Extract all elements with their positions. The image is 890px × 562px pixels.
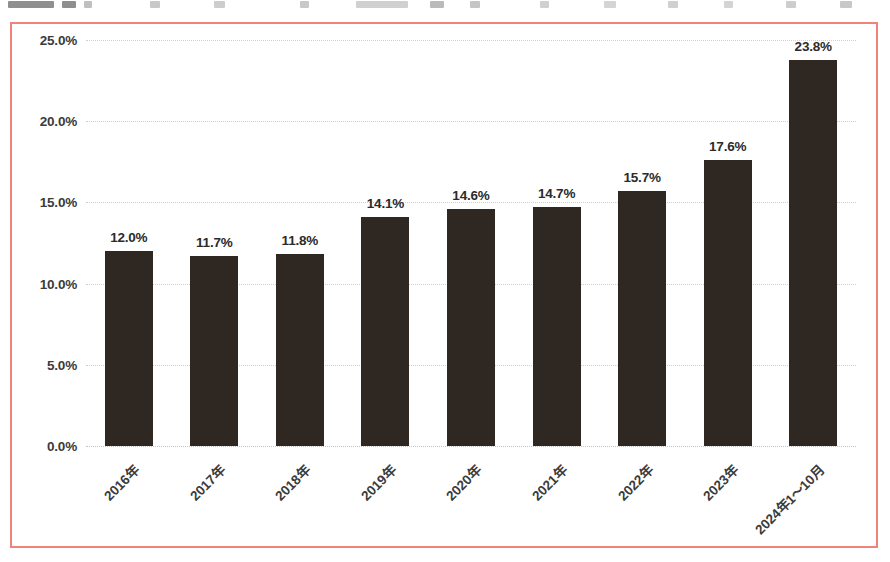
bar-series: 12.0%11.7%11.8%14.1%14.6%14.7%15.7%17.6%… [86, 40, 856, 446]
x-axis: 2016年2017年2018年2019年2020年2021年2022年2023年… [86, 454, 856, 546]
x-axis-tick-label: 2019年 [355, 460, 399, 504]
bar[interactable] [618, 191, 666, 446]
bar-value-label: 14.1% [367, 196, 404, 211]
bar[interactable] [361, 217, 409, 446]
chart-frame: 0.0%5.0%10.0%15.0%20.0%25.0% 12.0%11.7%1… [10, 22, 878, 548]
x-axis-tick-label: 2018年 [270, 460, 314, 504]
bar[interactable] [190, 256, 238, 446]
bar[interactable] [704, 160, 752, 446]
gridline [86, 446, 856, 447]
x-axis-tick-label: 2024年1～10月 [749, 460, 827, 538]
x-axis-tick-label: 2021年 [526, 460, 570, 504]
x-axis-tick-label: 2022年 [612, 460, 656, 504]
x-axis-tick-label: 2017年 [184, 460, 228, 504]
y-axis-tick-label: 0.0% [47, 439, 77, 454]
y-axis-tick-label: 25.0% [40, 33, 77, 48]
bar-value-label: 14.7% [538, 186, 575, 201]
bar[interactable] [276, 254, 324, 446]
y-axis-tick-label: 20.0% [40, 114, 77, 129]
bar[interactable] [789, 60, 837, 447]
plot-area: 0.0%5.0%10.0%15.0%20.0%25.0% 12.0%11.7%1… [86, 40, 856, 446]
bar-value-label: 11.7% [196, 235, 233, 250]
bar-value-label: 17.6% [709, 139, 746, 154]
x-axis-tick-label: 2023年 [698, 460, 742, 504]
bar-value-label: 14.6% [452, 188, 489, 203]
y-axis-tick-label: 10.0% [40, 276, 77, 291]
bar[interactable] [105, 251, 153, 446]
x-axis-tick-label: 2020年 [441, 460, 485, 504]
x-axis-tick-label: 2016年 [99, 460, 143, 504]
y-axis-tick-label: 15.0% [40, 195, 77, 210]
bar[interactable] [447, 209, 495, 446]
bar-value-label: 11.8% [282, 233, 319, 248]
bar[interactable] [533, 207, 581, 446]
cropped-page-text-sliver [0, 0, 890, 11]
bar-value-label: 12.0% [110, 230, 147, 245]
y-axis-tick-label: 5.0% [47, 357, 77, 372]
bar-value-label: 23.8% [795, 39, 832, 54]
bar-value-label: 15.7% [623, 170, 660, 185]
